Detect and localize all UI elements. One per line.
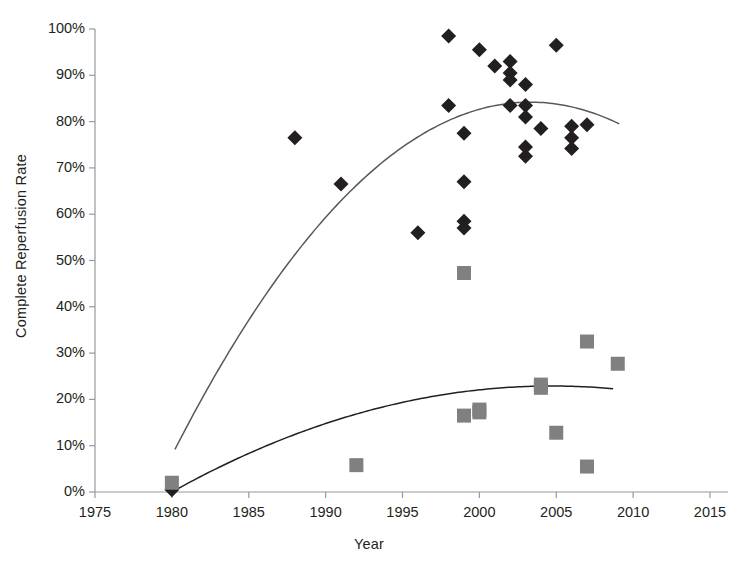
data-point-diamond (334, 177, 349, 192)
data-point-diamond (441, 98, 456, 113)
data-point-diamond (518, 77, 533, 92)
data-point-diamond (518, 109, 533, 124)
data-point-diamond (457, 174, 472, 189)
data-point-diamond (503, 98, 518, 113)
data-point-diamond (287, 130, 302, 145)
plot-area (0, 0, 738, 570)
trendline (172, 386, 613, 492)
data-point-diamond (487, 59, 502, 74)
data-point-square (457, 409, 471, 423)
data-point-diamond (472, 42, 487, 57)
data-points-layer (164, 28, 624, 497)
data-point-square (457, 266, 471, 280)
data-point-diamond (580, 117, 595, 132)
data-point-square (580, 335, 594, 349)
data-point-square (549, 426, 563, 440)
data-point-square (534, 381, 548, 395)
data-point-diamond (564, 141, 579, 156)
scatter-chart: Complete Reperfusion Rate Year 0%10%20%3… (0, 0, 738, 570)
data-point-square (611, 357, 625, 371)
data-point-diamond (533, 121, 548, 136)
data-point-square (472, 403, 486, 417)
data-point-diamond (410, 225, 425, 240)
data-point-diamond (457, 126, 472, 141)
data-point-diamond (518, 149, 533, 164)
axis-lines (89, 29, 728, 498)
data-point-square (349, 458, 363, 472)
trendline (175, 102, 619, 449)
data-point-square (580, 460, 594, 474)
data-point-diamond (441, 28, 456, 43)
data-point-square (165, 476, 179, 490)
data-point-diamond (549, 38, 564, 53)
